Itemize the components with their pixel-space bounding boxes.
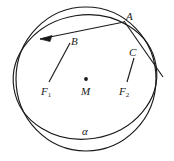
arrowhead-icon	[40, 36, 52, 42]
label-point-a: A	[126, 11, 133, 22]
label-focus-1: F1	[41, 86, 51, 97]
segment-f2-c	[127, 58, 134, 82]
label-point-c: C	[129, 47, 136, 58]
label-alpha: α	[82, 126, 88, 137]
label-center-m: M	[81, 86, 90, 97]
line-b-a	[40, 22, 124, 39]
label-point-b: B	[71, 36, 78, 47]
label-focus-1-subscript: 1	[48, 91, 52, 99]
label-focus-2: F2	[119, 86, 129, 97]
geometry-figure: A B C F1 F2 M α	[0, 0, 174, 161]
label-focus-2-base: F	[119, 85, 126, 97]
center-point-dot	[84, 77, 88, 81]
label-focus-2-subscript: 2	[126, 91, 130, 99]
segment-f1-b	[49, 43, 70, 82]
label-focus-1-base: F	[41, 85, 48, 97]
